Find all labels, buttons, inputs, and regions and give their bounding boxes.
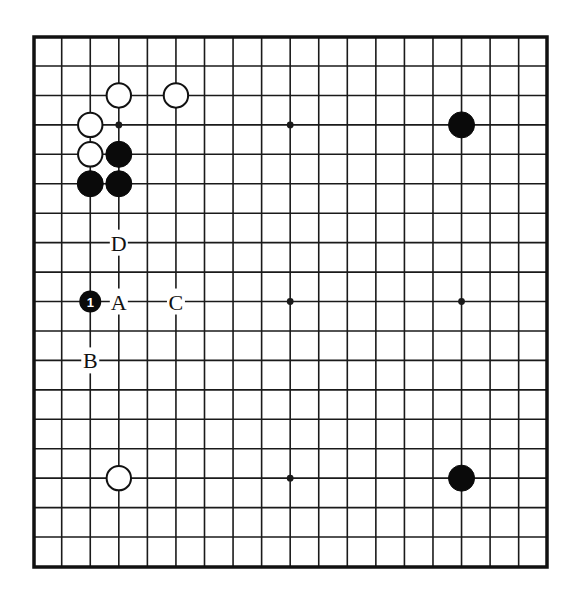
label-text: B [83, 348, 98, 373]
white-stone-icon [164, 83, 188, 107]
star-point-icon [287, 298, 294, 305]
star-point-icon [287, 121, 294, 128]
black-stone-icon [449, 465, 475, 491]
white-stone-icon [78, 113, 102, 137]
star-point-icon [115, 121, 122, 128]
label-text: D [111, 231, 127, 256]
black-stone-icon [106, 171, 132, 197]
position-label-c: C [167, 289, 185, 315]
star-point-icon [287, 475, 294, 482]
black-stone-icon [77, 171, 103, 197]
white-stone-icon [107, 83, 131, 107]
white-stone-icon [107, 466, 131, 490]
white-stone-icon [78, 142, 102, 166]
go-board: DACB 1 [0, 0, 571, 598]
label-text: C [169, 290, 184, 315]
numbered-stone-1: 1 [79, 291, 101, 313]
black-stone-icon [106, 141, 132, 167]
black-stone-icon [449, 112, 475, 138]
position-label-a: A [110, 289, 128, 315]
position-label-d: D [110, 230, 128, 256]
position-label-b: B [81, 347, 99, 373]
move-number: 1 [87, 295, 94, 310]
star-point-icon [458, 298, 465, 305]
label-text: A [111, 290, 127, 315]
